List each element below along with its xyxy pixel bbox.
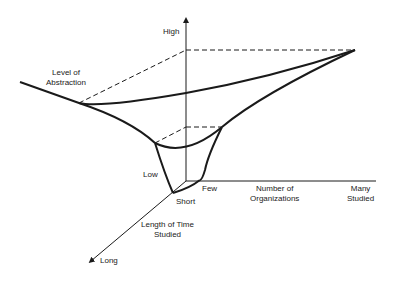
organizations-line1: Number of	[250, 184, 299, 194]
axis-title-time: Length of Time Studied	[141, 220, 194, 240]
organizations-line2: Organizations	[250, 194, 299, 204]
many-line1: Many	[347, 184, 374, 194]
axis-title-abstraction: Level of Abstraction	[46, 68, 86, 88]
axis-title-organizations: Number of Organizations	[250, 184, 299, 204]
time-line1: Length of Time	[141, 220, 194, 230]
abstraction-line2: Abstraction	[46, 78, 86, 88]
axis-label-high: High	[163, 27, 179, 37]
time-line2: Studied	[141, 230, 194, 240]
dashed-projections	[79, 50, 355, 143]
axis-label-long: Long	[100, 256, 118, 266]
abstraction-line1: Level of	[46, 68, 86, 78]
axis-label-many: Many Studied	[347, 184, 374, 204]
many-line2: Studied	[347, 194, 374, 204]
diagram-canvas	[0, 0, 398, 281]
axis-label-few: Few	[202, 184, 217, 194]
axis-label-short: Short	[176, 197, 195, 207]
axis-label-low: Low	[143, 170, 158, 180]
